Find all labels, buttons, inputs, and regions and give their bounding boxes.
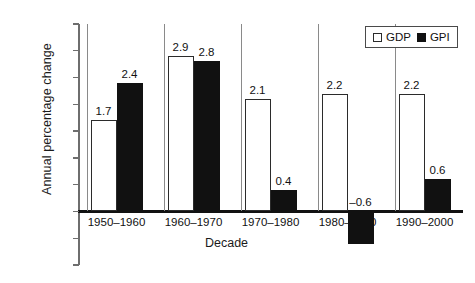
y-axis-tick <box>73 104 79 105</box>
y-axis-tick <box>73 264 79 265</box>
bar-gpi <box>194 61 220 211</box>
category-separator <box>241 24 242 211</box>
bar-value-label-gpi: 0.6 <box>419 164 457 176</box>
filled-square-swatch-icon <box>417 33 426 42</box>
y-axis-tick <box>73 130 79 131</box>
y-axis-tick <box>73 50 79 51</box>
bar-gpi <box>425 179 451 211</box>
x-axis-category-label: 1990–2000 <box>386 216 463 228</box>
bar-gdp <box>91 120 117 211</box>
x-axis-category-label: 1970–1980 <box>232 216 309 228</box>
plot-area: 3.53.02.52.01.51.00.50.0–0.5–1.0 1.72.42… <box>78 24 463 265</box>
category-separator <box>395 24 396 211</box>
y-axis-tick <box>73 238 79 239</box>
bar-value-label-gpi: 2.8 <box>188 46 226 58</box>
y-axis-tick <box>73 211 79 212</box>
bar-chart: Annual percentage change Decade 3.53.02.… <box>0 0 475 283</box>
open-square-swatch-icon <box>373 33 382 42</box>
y-axis-tick <box>73 157 79 158</box>
bar-value-label-gdp: 2.1 <box>239 84 277 96</box>
bar-value-label-gpi: –0.6 <box>342 196 380 208</box>
bar-value-label-gpi: 2.4 <box>111 68 149 80</box>
legend-item-gpi: GPI <box>417 31 450 43</box>
bar-value-label-gdp: 2.2 <box>316 79 354 91</box>
bar-value-label-gpi: 0.4 <box>265 175 303 187</box>
y-axis-line <box>78 24 80 265</box>
bar-gdp <box>245 99 271 211</box>
legend-item-gdp: GDP <box>373 31 411 43</box>
bar-gpi <box>117 83 143 212</box>
x-axis-category-label: 1980–1990 <box>309 216 386 228</box>
y-axis-tick <box>73 184 79 185</box>
bar-gdp <box>168 56 194 211</box>
x-axis-category-label: 1950–1960 <box>78 216 155 228</box>
legend-label-gpi: GPI <box>430 31 450 43</box>
bar-gpi <box>271 190 297 211</box>
x-axis-category-label: 1960–1970 <box>155 216 232 228</box>
bar-value-label-gdp: 2.2 <box>393 79 431 91</box>
category-separator <box>87 24 88 211</box>
y-axis-tick <box>73 23 79 24</box>
bar-gdp <box>399 94 425 212</box>
chart-legend: GDP GPI <box>365 26 458 48</box>
legend-label-gdp: GDP <box>386 31 411 43</box>
y-axis-tick <box>73 77 79 78</box>
category-separator <box>318 24 319 211</box>
y-axis-title: Annual percentage change <box>40 9 54 229</box>
bar-gdp <box>322 94 348 212</box>
